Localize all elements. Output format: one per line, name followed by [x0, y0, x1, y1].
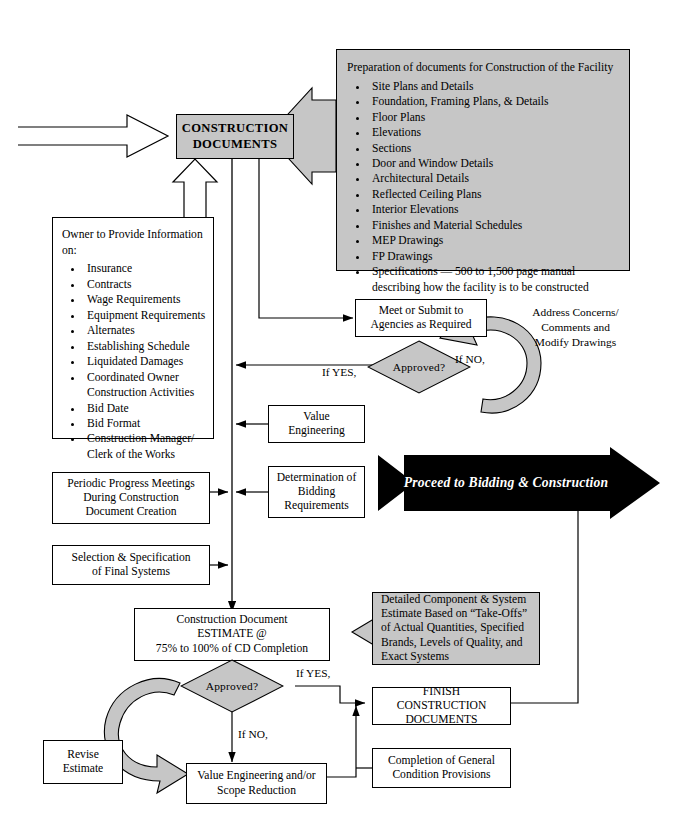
periodic-progress-meetings-box: Periodic Progress Meetings During Constr… [52, 472, 210, 524]
periodic-line3: Document Creation [85, 505, 176, 518]
if-yes-label-1: If YES, [322, 366, 356, 378]
address-concerns-line3: Modify Drawings [535, 336, 616, 348]
finish-construction-documents-box: FINISH CONSTRUCTION DOCUMENTS [372, 687, 511, 725]
list-item: Specifications — 500 to 1,500 page manua… [369, 264, 621, 295]
cd-estimate-line3: 75% to 100% of CD Completion [156, 642, 308, 655]
detailed-estimate-line5: Exact Systems [381, 650, 449, 663]
value-engineering-scope-reduction-box: Value Engineering and/or Scope Reduction [186, 763, 327, 804]
proceed-to-bidding-arrow: Proceed to Bidding & Construction [378, 447, 660, 519]
completion-line2: Condition Provisions [392, 768, 490, 781]
list-item: Interior Elevations [369, 202, 621, 217]
list-item: Door and Window Details [369, 156, 621, 171]
address-concerns-line1: Address Concerns/ [532, 306, 618, 318]
owner-info-list: Insurance Contracts Wage Requirements Eq… [62, 261, 207, 462]
owner-info-heading-line2: on: [62, 243, 207, 259]
list-item: Alternates [84, 323, 207, 338]
revise-estimate-line2: Estimate [63, 762, 104, 775]
selection-line2: of Final Systems [92, 565, 170, 578]
meet-submit-line1: Meet or Submit to [379, 304, 464, 317]
list-item: Bid Format [84, 416, 207, 431]
cd-line2: DOCUMENTS [193, 137, 278, 151]
ve-scope-line1: Value Engineering and/or [197, 769, 315, 782]
completion-line1: Completion of General [388, 754, 495, 767]
list-item: Insurance [84, 261, 207, 276]
list-item: Establishing Schedule [84, 339, 207, 354]
determination-of-bidding-requirements-box: Determination of Bidding Requirements [268, 466, 365, 518]
address-concerns-label: Address Concerns/ Comments and Modify Dr… [513, 305, 638, 349]
list-item: Equipment Requirements [84, 308, 207, 323]
list-item: Architectural Details [369, 171, 621, 186]
determination-line1: Determination of [277, 471, 357, 484]
list-item: Coordinated Owner Construction Activitie… [84, 370, 207, 401]
flowchart-canvas: Proceed to Bidding & Construction Prepar… [0, 0, 683, 840]
revise-estimate-line1: Revise [67, 748, 99, 761]
preparation-heading: Preparation of documents for Constructio… [347, 60, 621, 76]
periodic-line1: Periodic Progress Meetings [67, 477, 195, 490]
if-yes-label-2: If YES, [296, 667, 330, 679]
construction-documents-box: CONSTRUCTION DOCUMENTS [176, 114, 294, 159]
list-item: Reflected Ceiling Plans [369, 187, 621, 202]
owner-info-heading-line1: Owner to Provide Information [62, 227, 207, 243]
cd-estimate-line1: Construction Document [176, 613, 287, 626]
list-item: Sections [369, 141, 621, 156]
proceed-arrow-label: Proceed to Bidding & Construction [378, 447, 660, 519]
if-no-label-1: If NO, [455, 353, 485, 365]
cd-estimate-line2: ESTIMATE @ [197, 627, 267, 640]
periodic-line2: During Construction [83, 491, 179, 504]
selection-and-specification-box: Selection & Specification of Final Syste… [52, 545, 210, 585]
determination-line3: Requirements [284, 499, 348, 512]
value-engineering-line2: Engineering [288, 424, 345, 437]
approved-decision-1: Approved? [367, 340, 471, 394]
preparation-of-documents-box: Preparation of documents for Constructio… [336, 49, 630, 271]
finish-cd-line1: FINISH CONSTRUCTION [397, 685, 487, 712]
approved-2-label: Approved? [180, 659, 284, 713]
detailed-component-system-estimate-box: Detailed Component & System Estimate Bas… [372, 592, 540, 665]
cd-line1: CONSTRUCTION [182, 121, 288, 135]
value-engineering-line1: Value [303, 410, 329, 423]
value-engineering-box: Value Engineering [268, 405, 365, 443]
list-item: FP Drawings [369, 249, 621, 264]
approved-decision-2: Approved? [180, 659, 284, 713]
detailed-estimate-line2: Estimate Based on “Take-Offs” [381, 607, 527, 620]
detailed-estimate-line3: of Actual Quantities, Specified [381, 621, 524, 634]
list-item: Floor Plans [369, 110, 621, 125]
approved-1-label: Approved? [367, 340, 471, 394]
list-item: Elevations [369, 125, 621, 140]
address-concerns-line2: Comments and [541, 321, 610, 333]
meet-or-submit-box: Meet or Submit to Agencies as Required [355, 299, 487, 337]
finish-cd-line2: DOCUMENTS [405, 713, 477, 726]
list-item: Site Plans and Details [369, 79, 621, 94]
detailed-estimate-line1: Detailed Component & System [381, 593, 526, 606]
list-item: Bid Date [84, 401, 207, 416]
list-item: Wage Requirements [84, 292, 207, 307]
selection-line1: Selection & Specification [71, 551, 190, 564]
construction-documents-label: CONSTRUCTION DOCUMENTS [177, 121, 293, 152]
list-item: Contracts [84, 277, 207, 292]
list-item: Finishes and Material Schedules [369, 218, 621, 233]
detailed-estimate-line4: Brands, Levels of Quality, and [381, 636, 523, 649]
list-item: Foundation, Framing Plans, & Details [369, 94, 621, 109]
owner-to-provide-information-box: Owner to Provide Information on: Insuran… [52, 217, 214, 439]
ve-scope-line2: Scope Reduction [217, 784, 296, 797]
list-item: MEP Drawings [369, 233, 621, 248]
meet-submit-line2: Agencies as Required [370, 318, 471, 331]
list-item: Construction Manager/ Clerk of the Works [84, 431, 207, 462]
if-no-label-2: If NO, [238, 728, 268, 740]
completion-of-general-conditions-box: Completion of General Condition Provisio… [372, 748, 511, 788]
revise-estimate-box: Revise Estimate [43, 740, 123, 784]
list-item: Liquidated Damages [84, 354, 207, 369]
preparation-list: Site Plans and Details Foundation, Frami… [347, 79, 621, 296]
construction-document-estimate-box: Construction Document ESTIMATE @ 75% to … [134, 608, 330, 661]
determination-line2: Bidding [298, 485, 335, 498]
